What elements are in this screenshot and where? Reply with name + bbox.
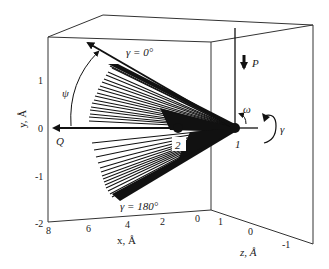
point-1-label: 1 bbox=[235, 138, 241, 150]
y-axis-ticks: 1 0 -1 -2 bbox=[35, 75, 43, 229]
point-1 bbox=[230, 123, 240, 133]
psi-label: ψ bbox=[62, 87, 69, 99]
svg-text:2: 2 bbox=[160, 216, 165, 227]
svg-text:0: 0 bbox=[38, 123, 43, 134]
omega-arc bbox=[240, 114, 246, 124]
force-label: P bbox=[251, 57, 259, 69]
svg-text:-2: -2 bbox=[35, 218, 43, 229]
diagram-canvas: γ = 0° γ = 180° ψ ω γ P Q 1 2 1 0 -1 -2 … bbox=[0, 0, 329, 269]
upper-fan-lines bbox=[89, 66, 235, 128]
x-axis-label: x, Å bbox=[117, 234, 136, 246]
z-axis-label: z, Å bbox=[239, 246, 257, 258]
svg-text:8: 8 bbox=[46, 225, 51, 236]
gamma-180-label: γ = 180° bbox=[120, 200, 159, 212]
svg-text:1: 1 bbox=[218, 216, 223, 227]
point-2-label: 2 bbox=[175, 139, 181, 151]
omega-label: ω bbox=[243, 103, 251, 115]
svg-text:-1: -1 bbox=[282, 239, 290, 250]
gamma-rotation-label: γ bbox=[280, 123, 285, 135]
svg-text:6: 6 bbox=[86, 223, 91, 234]
svg-text:4: 4 bbox=[125, 219, 130, 230]
svg-text:-1: -1 bbox=[35, 171, 43, 182]
y-axis-label: y, Å bbox=[16, 110, 28, 128]
gamma-rotation-arrowhead bbox=[262, 113, 270, 122]
point-2 bbox=[173, 123, 183, 133]
q-label: Q bbox=[56, 135, 64, 147]
gamma-zero-label: γ = 0° bbox=[126, 46, 154, 58]
svg-text:0: 0 bbox=[195, 213, 200, 224]
svg-text:1: 1 bbox=[38, 75, 43, 86]
svg-text:0: 0 bbox=[248, 226, 253, 237]
